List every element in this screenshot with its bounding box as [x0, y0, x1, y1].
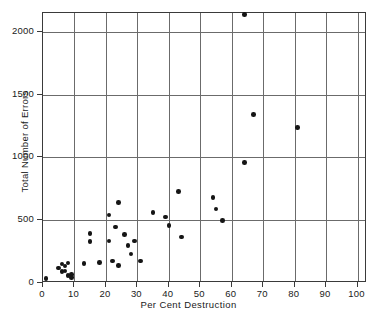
data-point — [113, 225, 118, 230]
y-gridline — [43, 157, 365, 158]
data-point — [132, 239, 137, 244]
data-point — [110, 259, 115, 264]
data-point — [242, 160, 247, 165]
data-point — [167, 223, 172, 228]
data-point — [97, 260, 102, 265]
x-axis-title: Per Cent Destruction — [0, 299, 377, 310]
data-point — [69, 275, 74, 280]
data-point — [151, 210, 156, 215]
data-point — [88, 239, 93, 244]
data-point — [251, 112, 256, 117]
y-gridline — [43, 32, 365, 33]
y-axis-tick — [37, 282, 42, 283]
x-axis-tick-label: 30 — [123, 288, 149, 299]
y-axis-title: Total Number of Errors — [19, 62, 30, 222]
x-axis-tick — [262, 282, 263, 287]
y-axis-tick — [37, 31, 42, 32]
y-axis-tick-label: 1500 — [0, 88, 34, 99]
y-gridline — [43, 220, 365, 221]
x-axis-tick-label: 100 — [344, 288, 370, 299]
y-axis-tick-label: 0 — [0, 276, 34, 287]
y-gridline — [43, 95, 365, 96]
x-gridline — [169, 13, 170, 281]
y-axis-tick-label: 500 — [0, 213, 34, 224]
scatter-chart-figure: Total Number of Errors Per Cent Destruct… — [0, 0, 377, 314]
x-axis-tick — [357, 282, 358, 287]
x-axis-tick — [325, 282, 326, 287]
x-axis-tick-label: 20 — [92, 288, 118, 299]
x-axis-tick-label: 60 — [218, 288, 244, 299]
data-point — [211, 195, 216, 200]
y-axis-tick-label: 2000 — [0, 25, 34, 36]
data-point — [107, 239, 112, 244]
y-axis-tick — [37, 94, 42, 95]
data-point — [295, 125, 300, 130]
data-point — [66, 261, 71, 266]
x-gridline — [232, 13, 233, 281]
data-point — [116, 200, 121, 205]
x-axis-tick-label: 40 — [155, 288, 181, 299]
data-point — [179, 235, 184, 240]
data-point — [163, 215, 168, 220]
x-gridline — [358, 13, 359, 281]
data-point — [176, 189, 181, 194]
x-axis-tick-label: 0 — [29, 288, 55, 299]
data-point — [220, 218, 225, 223]
x-axis-tick-label: 90 — [312, 288, 338, 299]
x-axis-tick-label: 10 — [60, 288, 86, 299]
x-axis-tick-label: 70 — [249, 288, 275, 299]
data-point — [126, 243, 131, 248]
x-axis-tick — [199, 282, 200, 287]
x-gridline — [326, 13, 327, 281]
plot-area — [42, 12, 366, 282]
y-axis-tick — [37, 219, 42, 220]
y-axis-tick-label: 1000 — [0, 150, 34, 161]
x-axis-tick — [73, 282, 74, 287]
data-point — [116, 263, 121, 268]
data-point — [138, 259, 143, 264]
data-point — [129, 252, 134, 257]
x-axis-tick-label: 80 — [281, 288, 307, 299]
x-axis-tick — [136, 282, 137, 287]
x-gridline — [295, 13, 296, 281]
x-gridline — [74, 13, 75, 281]
data-point — [122, 232, 127, 237]
data-point — [88, 231, 93, 236]
data-point — [242, 12, 247, 17]
x-axis-tick — [231, 282, 232, 287]
data-point — [107, 213, 112, 218]
y-axis-tick — [37, 156, 42, 157]
data-point — [44, 276, 49, 281]
x-axis-tick — [42, 282, 43, 287]
x-axis-tick-label: 50 — [186, 288, 212, 299]
data-point — [214, 207, 219, 212]
x-axis-tick — [294, 282, 295, 287]
x-axis-tick — [168, 282, 169, 287]
x-gridline — [137, 13, 138, 281]
x-gridline — [200, 13, 201, 281]
x-gridline — [263, 13, 264, 281]
data-point — [82, 261, 87, 266]
x-axis-tick — [105, 282, 106, 287]
